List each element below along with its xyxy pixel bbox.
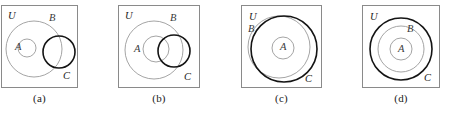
venn-canvas-a: UBAC: [1, 5, 78, 88]
set-label-b-b: B: [170, 12, 177, 23]
venn-panel-b: UBAC(b): [118, 0, 200, 115]
venn-diagram-figure: UBAC(a)UBAC(b)UBAC(c)UBAC(d): [0, 0, 453, 115]
venn-canvas-c: UBAC: [241, 5, 322, 88]
panel-caption-a: (a): [1, 92, 78, 104]
universe-label-b: U: [125, 10, 134, 21]
panel-caption-b: (b): [118, 92, 200, 104]
set-label-c-c: C: [305, 73, 313, 84]
venn-panel-a: UBAC(a): [1, 0, 78, 115]
set-label-a-a: A: [14, 41, 22, 52]
set-label-c-d: C: [424, 72, 432, 83]
panel-caption-c: (c): [241, 92, 322, 104]
set-label-b-c: B: [248, 23, 255, 34]
set-label-a-b: A: [133, 43, 141, 54]
set-circle-c-b: [158, 35, 190, 67]
venn-panel-c: UBAC(c): [241, 0, 322, 115]
venn-canvas-d: UBAC: [362, 5, 440, 88]
set-label-a-d: A: [397, 43, 405, 54]
venn-canvas-b: UBAC: [118, 5, 200, 88]
set-label-a-c: A: [279, 41, 287, 52]
set-label-c-b: C: [184, 71, 192, 82]
panel-caption-d: (d): [362, 92, 440, 104]
set-circle-a-b: [143, 36, 169, 62]
set-label-c-a: C: [63, 70, 71, 81]
set-circle-c-a: [43, 36, 75, 68]
set-label-b-d: B: [407, 23, 414, 34]
universe-label-d: U: [370, 11, 379, 22]
universe-label-c: U: [249, 11, 258, 22]
set-label-b-a: B: [49, 12, 56, 23]
universe-label-a: U: [8, 10, 17, 21]
venn-panel-d: UBAC(d): [362, 0, 440, 115]
